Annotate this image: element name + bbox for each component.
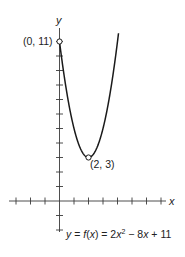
eq-plus: + 11 <box>148 228 171 240</box>
parabola-figure: y x (0, 11) (2, 3) y = f(x) = 2x2 − 8x +… <box>0 0 185 257</box>
y-intercept-label: (0, 11) <box>23 35 53 47</box>
equation-label: y = f(x) = 2x2 − 8x + 11 <box>65 228 171 240</box>
y-axis-label: y <box>55 14 63 26</box>
axes <box>9 28 166 232</box>
y-intercept-marker <box>57 39 62 44</box>
x-axis-label: x <box>168 195 175 207</box>
eq-equals-1: = <box>71 228 83 240</box>
eq-minus: − 8 <box>125 228 143 240</box>
vertex-label: (2, 3) <box>90 158 115 170</box>
parabola-curve <box>60 33 119 157</box>
eq-equals-2: = 2 <box>98 228 116 240</box>
